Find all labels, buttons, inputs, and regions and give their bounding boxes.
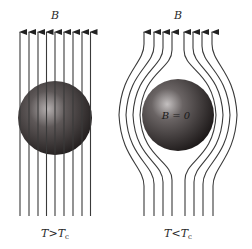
field-line [119, 32, 144, 216]
meissner-effect-figure: B T>Tc B B = 0 [0, 0, 252, 249]
field-line [212, 32, 237, 216]
panel-normal-state: B T>Tc [18, 9, 92, 241]
field-label-b-left: B [50, 9, 59, 22]
interior-field-label: B = 0 [161, 110, 191, 121]
field-label-b-right: B [173, 9, 182, 22]
condition-label-left: T>Tc [41, 227, 69, 241]
panel-superconducting-state: B B = 0 T<Tc [119, 9, 237, 241]
condition-label-right: T<Tc [164, 227, 192, 241]
